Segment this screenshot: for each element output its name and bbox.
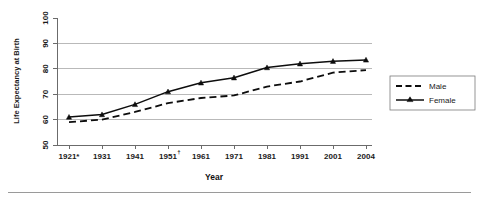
x-tick-label-6: 1981 xyxy=(258,152,276,161)
y-tick-label-90: 90 xyxy=(41,38,50,47)
legend-label-male: Male xyxy=(429,82,447,91)
y-tick-label-50: 50 xyxy=(41,140,50,149)
x-axis: 1921* 1931 1941 1951 † 1961 1971 1981 19… xyxy=(57,145,375,182)
x-tick-label-4: 1961 xyxy=(192,152,210,161)
x-tick-label-7: 1991 xyxy=(291,152,309,161)
series-male-group xyxy=(69,70,366,122)
x-tick-label-8: 2001 xyxy=(324,152,342,161)
y-axis: 100 90 80 70 60 50 Life Expectancy at Bi… xyxy=(12,11,57,150)
y-tick-label-70: 70 xyxy=(41,89,50,98)
chart-svg: 100 90 80 70 60 50 Life Expectancy at Bi… xyxy=(0,0,479,198)
x-tick-label-2: 1941 xyxy=(126,152,144,161)
x-tick-label-0: 1921* xyxy=(59,152,81,161)
y-tick-label-100: 100 xyxy=(41,11,50,25)
line-chart-figure: 100 90 80 70 60 50 Life Expectancy at Bi… xyxy=(0,0,479,198)
plot-gridlines xyxy=(57,43,372,119)
legend-label-female: Female xyxy=(429,96,456,105)
y-tick-label-60: 60 xyxy=(41,115,50,124)
y-tick-label-80: 80 xyxy=(41,64,50,73)
x-tick-label-1: 1931 xyxy=(93,152,111,161)
series-male-line xyxy=(69,70,366,122)
x-tick-label-5: 1971 xyxy=(225,152,243,161)
x-axis-title: Year xyxy=(205,172,224,182)
series-female-group xyxy=(66,57,368,119)
x-tick-label-9: 2004 xyxy=(357,152,375,161)
x-tick-label-3: 1951 xyxy=(159,152,177,161)
legend: Male Female xyxy=(390,76,475,110)
series-female-markers xyxy=(66,57,368,119)
x-tick-label-3-superscript: † xyxy=(177,149,180,155)
y-axis-title: Life Expectancy at Birth xyxy=(12,38,21,124)
